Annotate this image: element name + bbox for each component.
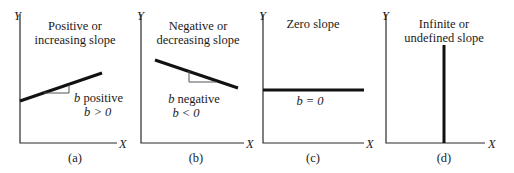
panel-title-line2: increasing slope	[35, 33, 116, 47]
slope-note-line1: b negative	[168, 92, 220, 106]
panel-caption: (a)	[68, 151, 82, 165]
slope-note-line1: b positive	[74, 91, 123, 105]
slope-diagram: Y X Positive or increasing slope b posit…	[0, 0, 514, 173]
x-axis-label: X	[245, 137, 255, 151]
panel-b: Y X Negative or decreasing slope b negat…	[137, 9, 255, 165]
y-axis-label: Y	[14, 9, 23, 23]
panel-a: Y X Positive or increasing slope b posit…	[14, 9, 128, 165]
x-axis-label: X	[365, 137, 375, 151]
panel-c: Y X Zero slope b = 0 (c)	[259, 9, 375, 165]
slope-note-line2: b > 0	[84, 105, 112, 119]
x-axis-label: X	[487, 137, 497, 151]
panel-title-line1: Negative or	[169, 19, 228, 33]
x-axis-label: X	[118, 137, 128, 151]
slope-note: b = 0	[296, 94, 324, 108]
slope-note-line2: b < 0	[172, 106, 200, 120]
axes	[263, 14, 364, 143]
panel-title: Zero slope	[286, 17, 340, 31]
panel-d: Y X Infinite or undefined slope (d)	[382, 9, 497, 165]
panel-title-line2: decreasing slope	[157, 33, 240, 47]
panel-caption: (b)	[189, 151, 204, 165]
panel-caption: (d)	[437, 151, 452, 165]
panel-title-line1: Positive or	[48, 19, 103, 33]
slope-line	[155, 60, 238, 88]
panel-title-line2: undefined slope	[404, 31, 484, 45]
panel-title-line1: Infinite or	[419, 17, 470, 31]
panel-caption: (c)	[306, 151, 320, 165]
